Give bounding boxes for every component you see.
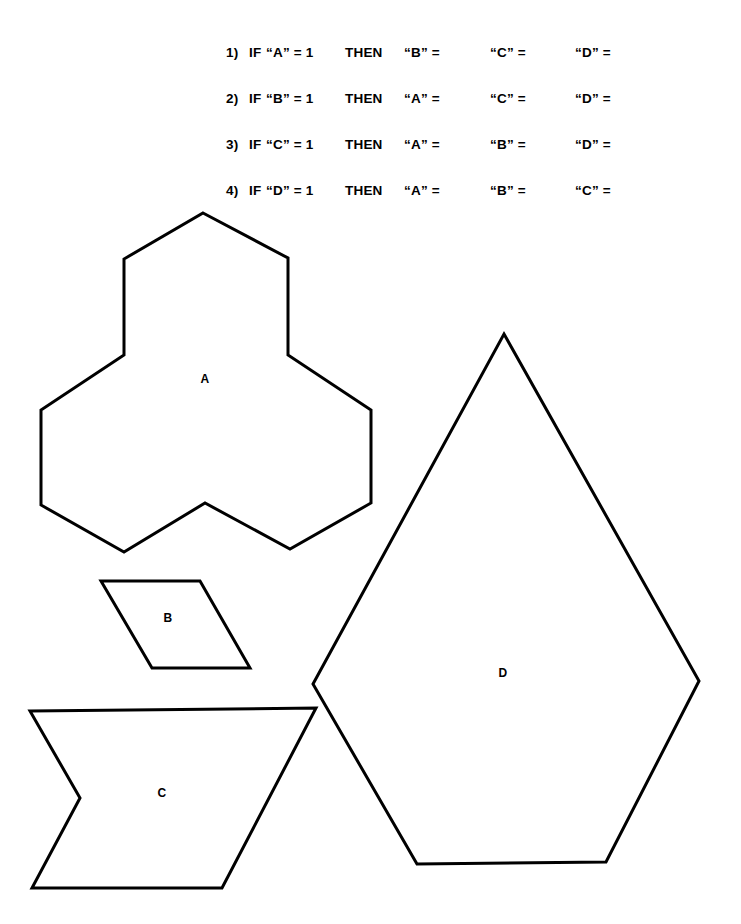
shape-label-d: D xyxy=(499,666,508,680)
shape-c-polygon[interactable] xyxy=(30,708,316,888)
shape-b-polygon[interactable] xyxy=(101,581,250,668)
shape-label-c: C xyxy=(158,786,167,800)
worksheet-page: 1) IF “A” = 1 THEN “B” = “C” = “D” = 2) … xyxy=(0,0,741,924)
figure-panel: A B C D xyxy=(0,0,741,924)
shape-label-a: A xyxy=(201,372,210,386)
shape-label-b: B xyxy=(164,611,173,625)
shapes-canvas xyxy=(0,0,741,924)
